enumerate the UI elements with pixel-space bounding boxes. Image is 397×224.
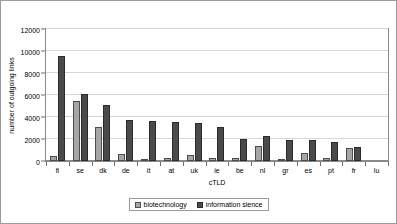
bar <box>195 123 202 161</box>
x-tick-mark <box>137 162 138 166</box>
x-tick-label: fr <box>352 167 356 174</box>
y-tick-label: 10000 <box>21 49 40 56</box>
bar-group <box>320 29 343 161</box>
bar <box>141 159 148 161</box>
x-tick-mark <box>114 162 115 166</box>
x-tick-mark <box>342 162 343 166</box>
x-axis-title: cTLD <box>45 179 389 186</box>
bar <box>95 127 102 161</box>
bar-group <box>137 29 160 161</box>
bar-group <box>92 29 115 161</box>
y-tick-label: 0 <box>36 159 40 166</box>
x-tick-label: uk <box>190 167 197 174</box>
x-tick-mark <box>160 162 161 166</box>
y-tick-label: 4000 <box>24 115 40 122</box>
bar <box>255 146 262 161</box>
x-tick-mark <box>274 162 275 166</box>
x-tick-label: be <box>236 167 244 174</box>
x-tick-label: it <box>147 167 151 174</box>
x-tick-mark <box>251 162 252 166</box>
x-tick-label: es <box>304 167 311 174</box>
legend-swatch-icon <box>134 202 140 208</box>
bar <box>81 94 88 161</box>
y-tick-label: 12000 <box>21 27 40 34</box>
x-tick-mark <box>46 162 47 166</box>
x-tick-mark <box>365 162 366 166</box>
x-tick-label: se <box>76 167 83 174</box>
legend-label: biotechnology <box>143 201 186 208</box>
x-tick-mark <box>206 162 207 166</box>
y-tick-label: 6000 <box>24 93 40 100</box>
bar <box>309 140 316 161</box>
bar <box>149 121 156 161</box>
bar-group <box>69 29 92 161</box>
bar-group <box>183 29 206 161</box>
bar <box>126 120 133 161</box>
bar <box>301 153 308 161</box>
bar <box>172 122 179 161</box>
x-tick-label: lu <box>374 167 379 174</box>
bar <box>73 101 80 162</box>
chart-figure: number of outgoing links 020004000600080… <box>0 0 397 224</box>
legend-swatch-icon <box>197 202 203 208</box>
bar-group <box>251 29 274 161</box>
x-tick-label: de <box>122 167 130 174</box>
x-tick-mark <box>320 162 321 166</box>
legend-item: biotechnology <box>134 201 186 208</box>
bar <box>331 142 338 161</box>
x-tick-mark <box>297 162 298 166</box>
bar-group <box>114 29 137 161</box>
bar <box>58 56 65 161</box>
chart-legend: biotechnologyinformation sience <box>128 198 268 211</box>
bar <box>354 147 361 161</box>
bar <box>240 139 247 161</box>
bar <box>232 158 239 161</box>
bar <box>286 140 293 161</box>
x-tick-label: nl <box>260 167 265 174</box>
x-tick-label: gr <box>282 167 288 174</box>
bar-group <box>228 29 251 161</box>
x-tick-mark <box>92 162 93 166</box>
x-tick-label: dk <box>99 167 106 174</box>
bar <box>118 154 125 161</box>
x-tick-label: fi <box>56 167 60 174</box>
y-tick-label: 8000 <box>24 71 40 78</box>
bar <box>50 156 57 161</box>
x-tick-mark <box>69 162 70 166</box>
bar-group <box>274 29 297 161</box>
bar <box>164 158 171 161</box>
y-axis-ticks: 020004000600080001000012000 <box>1 28 45 162</box>
bar <box>187 155 194 161</box>
bar <box>103 105 110 161</box>
x-tick-label: ie <box>214 167 219 174</box>
bars-layer <box>46 29 388 161</box>
bar-group <box>365 29 388 161</box>
x-tick-mark <box>183 162 184 166</box>
bar <box>217 127 224 161</box>
bar <box>323 158 330 161</box>
bar-group <box>160 29 183 161</box>
x-tick-label: at <box>168 167 174 174</box>
bar <box>263 136 270 161</box>
bar-group <box>297 29 320 161</box>
legend-label: information sience <box>206 201 263 208</box>
bar <box>209 158 216 161</box>
bar <box>278 159 285 161</box>
y-tick-label: 2000 <box>24 137 40 144</box>
x-axis-labels: fisedkdeitatukiebenlgresptfrlu <box>46 167 388 179</box>
bar-group <box>46 29 69 161</box>
x-tick-mark <box>228 162 229 166</box>
legend-item: information sience <box>197 201 263 208</box>
bar <box>346 148 353 161</box>
bar-group <box>342 29 365 161</box>
x-tick-label: pt <box>328 167 334 174</box>
bar-group <box>206 29 229 161</box>
x-tick-mark <box>388 162 389 166</box>
